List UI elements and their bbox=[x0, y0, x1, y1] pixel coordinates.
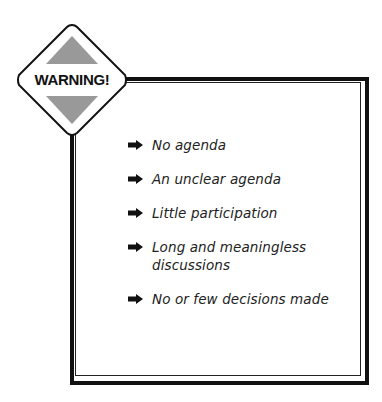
list-item: Little participation bbox=[128, 204, 358, 222]
list-item-text: Long and meaningless discussions bbox=[152, 239, 306, 273]
arrow-right-icon bbox=[128, 242, 143, 252]
arrow-right-icon bbox=[128, 140, 143, 150]
list-item: An unclear agenda bbox=[128, 170, 358, 188]
list-item-text: Little participation bbox=[152, 205, 278, 221]
list-item: No agenda bbox=[128, 136, 358, 154]
list-item-text: No or few decisions made bbox=[152, 291, 329, 307]
list-item-text: No agenda bbox=[152, 137, 226, 153]
issues-list: No agenda An unclear agenda Little parti… bbox=[128, 136, 358, 324]
warning-label: WARNING! bbox=[14, 70, 130, 90]
warning-sign: WARNING! bbox=[14, 22, 130, 138]
arrow-right-icon bbox=[128, 294, 143, 304]
list-item: No or few decisions made bbox=[128, 290, 358, 308]
list-item: Long and meaningless discussions bbox=[128, 238, 337, 274]
arrow-right-icon bbox=[128, 174, 143, 184]
list-item-text: An unclear agenda bbox=[152, 171, 281, 187]
arrow-right-icon bbox=[128, 208, 143, 218]
